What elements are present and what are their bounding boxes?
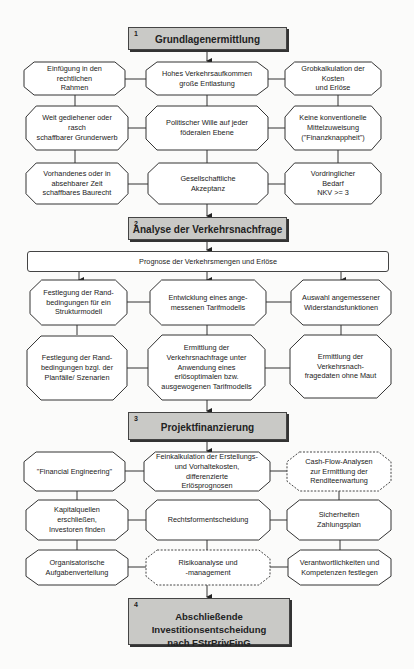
node-text: Kapitalquellen erschließen, Investoren f… [36,505,118,535]
node-text: Auswahl angemessener Widerstandsfunktion… [302,293,380,313]
node-text: "Financial Engineering" [37,467,112,477]
node-grobkalkulation: Grobkalkulation der Kosten und Erlöse [285,62,381,95]
node-text: Entwicklung eines ange- messenen Tarifmo… [168,293,247,313]
node-verkehrsnachfrage-tarif: Ermittlung der Verkehrsnachfrage unter A… [148,335,265,400]
node-baurecht: Vorhandenes oder in absehbarer Zeit scha… [26,163,128,204]
node-cash-flow: Cash-Flow-Analysen zur Ermittlung der Re… [287,452,391,491]
prognose-bar: Prognose der Verkehrsmengen und Erlöse [27,251,389,272]
node-einfuegung: Einfügung in den rechtlichen Rahmen [24,62,125,95]
phase-2-header: 2 Analyse der Verkehrsnachfrage [128,217,287,240]
node-text: Politischer Wille auf jeder föderalen Eb… [166,118,248,138]
node-text: Gesellschaftliche Akzeptanz [180,174,235,194]
node-text: Vordringlicher Bedarf NKV >= 3 [311,169,356,199]
node-text: Einfügung in den rechtlichen Rahmen [34,64,115,94]
node-text: Festlegung der Rand- bedingungen für ein… [43,288,114,318]
investment-decision-flowchart: 1 Grundlagenermittlung Einfügung in den … [0,0,414,669]
node-text: Grobkalkulation der Kosten und Erlöse [295,64,371,94]
node-text: Risikoanalyse und -management [178,558,237,578]
node-verantwortlichkeiten: Verantwortlichkeiten und Kompetenzen fes… [288,550,391,585]
node-text: Hohes Verkehrsaufkommen große Entlastung [162,69,252,89]
node-text: Cash-Flow-Analysen zur Ermittlung der Re… [305,457,372,487]
node-verkehrsaufkommen: Hohes Verkehrsaufkommen große Entlastung [146,62,268,95]
node-randbedingungen-planfaelle: Festlegung der Rand- bedingungen bzgl. d… [27,336,127,400]
node-mittelzuweisung: Keine konventionelle Mittelzuweisung ("F… [285,106,381,150]
phase-number: 3 [134,415,138,422]
phase-number: 4 [134,601,138,608]
node-randbedingungen-struktur: Festlegung der Rand- bedingungen für ein… [30,280,127,325]
phase-title: Abschließende Investitionsentscheidung n… [129,611,289,649]
node-text: Ermittlung der Verkehrsnach- fragedaten … [305,352,376,382]
node-text: Sicherheiten Zahlungsplan [317,510,361,530]
phase-3-header: 3 Projektfinanzierung [128,412,287,440]
node-financial-engineering: "Financial Engineering" [24,452,125,491]
node-bedarf: Vordringlicher Bedarf NKV >= 3 [285,163,381,204]
node-text: Festlegung der Rand- bedingungen bzgl. d… [41,353,113,383]
node-grunderwerb: Weit gediehener oder rasch schaffbarer G… [26,106,128,150]
node-organisation: Organisatorische Aufgabenverteilung [26,550,128,585]
prognose-text: Prognose der Verkehrsmengen und Erlöse [139,257,277,266]
node-text: Verantwortlichkeiten und Kompetenzen fes… [300,558,380,578]
node-akzeptanz: Gesellschaftliche Akzeptanz [148,163,268,204]
node-text: Keine konventionelle Mittelzuweisung ("F… [299,113,366,143]
phase-4-header: 4 Abschließende Investitionsentscheidung… [128,598,290,645]
node-tarifmodell: Entwicklung eines ange- messenen Tarifmo… [150,280,266,325]
node-widerstandsfunktionen: Auswahl angemessener Widerstandsfunktion… [291,280,391,325]
phase-title: Grundlagenermittlung [129,34,286,45]
node-rechtsform: Rechtsformentscheidung [146,500,270,540]
node-text: Feinkalkulation der Erstellungs- und Vor… [154,452,260,491]
node-kapitalquellen: Kapitalquellen erschließen, Investoren f… [26,500,128,540]
node-politischer-wille: Politischer Wille auf jeder föderalen Eb… [146,106,268,150]
node-ohne-maut: Ermittlung der Verkehrsnach- fragedaten … [290,335,391,398]
node-text: Organisatorische Aufgabenverteilung [46,558,109,578]
phase-title: Projektfinanzierung [129,422,286,433]
node-text: Weit gediehener oder rasch schaffbarer G… [36,113,118,143]
node-text: Ermittlung der Verkehrsnachfrage unter A… [161,343,251,392]
node-text: Rechtsformentscheidung [168,515,249,525]
node-sicherheiten: Sicherheiten Zahlungsplan [287,500,391,540]
phase-title: Analyse der Verkehrsnachfrage [129,224,286,235]
node-text: Vorhandenes oder in absehbarer Zeit scha… [43,169,112,199]
node-feinkalkulation: Feinkalkulation der Erstellungs- und Vor… [144,452,270,491]
node-risikoanalyse: Risikoanalyse und -management [146,550,270,585]
phase-1-header: 1 Grundlagenermittlung [128,27,287,50]
